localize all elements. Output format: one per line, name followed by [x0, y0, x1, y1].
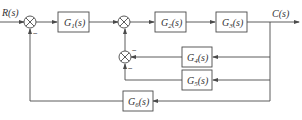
- block-g3: G3(s): [216, 12, 247, 32]
- summing-junction-2: [118, 16, 130, 28]
- minus-sign-s3-right: −: [132, 46, 137, 55]
- input-label: R(s): [1, 7, 19, 19]
- block-g6: G6(s): [123, 91, 153, 111]
- block-g5: G5(s): [182, 70, 212, 90]
- minus-sign-s1: −: [33, 29, 38, 38]
- summing-junction-3: [119, 51, 131, 63]
- wire-g6-s1: [30, 29, 123, 101]
- summing-junction-1: [24, 16, 36, 28]
- block-g4: G4(s): [182, 47, 212, 67]
- block-diagram: R(s) − G1(s) G2(s) G3(s) C(s): [0, 0, 302, 120]
- block-g1: G1(s): [58, 12, 89, 32]
- output-label: C(s): [272, 8, 290, 20]
- minus-sign-s3-bottom: −: [128, 64, 133, 73]
- block-g2: G2(s): [155, 12, 186, 32]
- wire-g5-s3: [125, 64, 182, 80]
